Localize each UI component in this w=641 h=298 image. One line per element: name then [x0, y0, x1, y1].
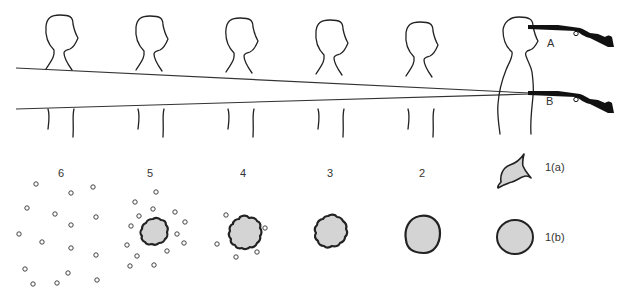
- silhouette-figure: [136, 16, 168, 137]
- stage-label-5: 5: [147, 168, 153, 179]
- rifle-label-b: B: [546, 96, 553, 107]
- pattern-stage-1a: [498, 154, 531, 188]
- pattern-stage-3: [315, 215, 347, 248]
- stage-label-6: 6: [58, 168, 64, 179]
- rifle-label-a: A: [547, 38, 554, 49]
- stage-label-2: 2: [419, 168, 425, 179]
- rifle-a: [528, 25, 614, 47]
- silhouette-figure: [316, 20, 348, 137]
- pattern-stage-6: [17, 182, 99, 286]
- pattern-stage-5: [125, 190, 187, 268]
- silhouette-figure: [406, 22, 438, 137]
- stage-label-4: 4: [240, 168, 246, 179]
- diagram-canvas: A B 6 5 4 3 2 1(a) 1(b): [0, 0, 641, 298]
- silhouette-figure-near: [498, 17, 538, 134]
- stage-label-1a: 1(a): [545, 162, 565, 173]
- stage-label-3: 3: [327, 168, 333, 179]
- silhouette-figure: [46, 15, 78, 137]
- pattern-stage-4: [215, 213, 267, 259]
- rifle-b: [528, 91, 614, 113]
- upper-sight-line: [16, 68, 530, 93]
- lower-sight-line: [16, 94, 530, 109]
- silhouette-figure: [226, 18, 258, 137]
- pattern-stage-1b: [497, 220, 533, 254]
- pattern-stage-2: [406, 216, 440, 253]
- stage-label-1b: 1(b): [545, 232, 565, 243]
